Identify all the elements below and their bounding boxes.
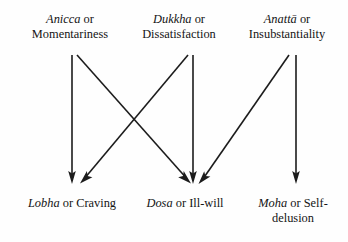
bottom-label-dosa-connector: or Ill-will [173, 196, 224, 210]
bottom-label-moha-connector: or Self- [287, 196, 328, 210]
arrow-anatta-to-dosa [199, 55, 290, 184]
arrow-dukkha-to-lobha [80, 55, 188, 184]
bottom-label-moha-term: Moha [258, 196, 287, 210]
bottom-label-dosa-term: Dosa [146, 196, 172, 210]
bottom-label-dosa: Dosa or Ill-will [130, 196, 240, 211]
arrow-dukkha-to-dosa [189, 55, 197, 184]
bottom-label-moha-gloss: delusion [240, 211, 346, 226]
arrow-anatta-to-moha [292, 55, 300, 184]
bottom-label-lobha-term: Lobha [28, 196, 60, 210]
doctrine-arrow-diagram: Anicca or Momentariness Dukkha or Dissat… [0, 0, 348, 242]
bottom-label-lobha-connector: or Craving [60, 196, 116, 210]
bottom-label-lobha: Lobha or Craving [8, 196, 136, 211]
bottom-label-moha: Moha or Self- delusion [240, 196, 346, 226]
arrow-anicca-to-lobha [68, 55, 76, 184]
